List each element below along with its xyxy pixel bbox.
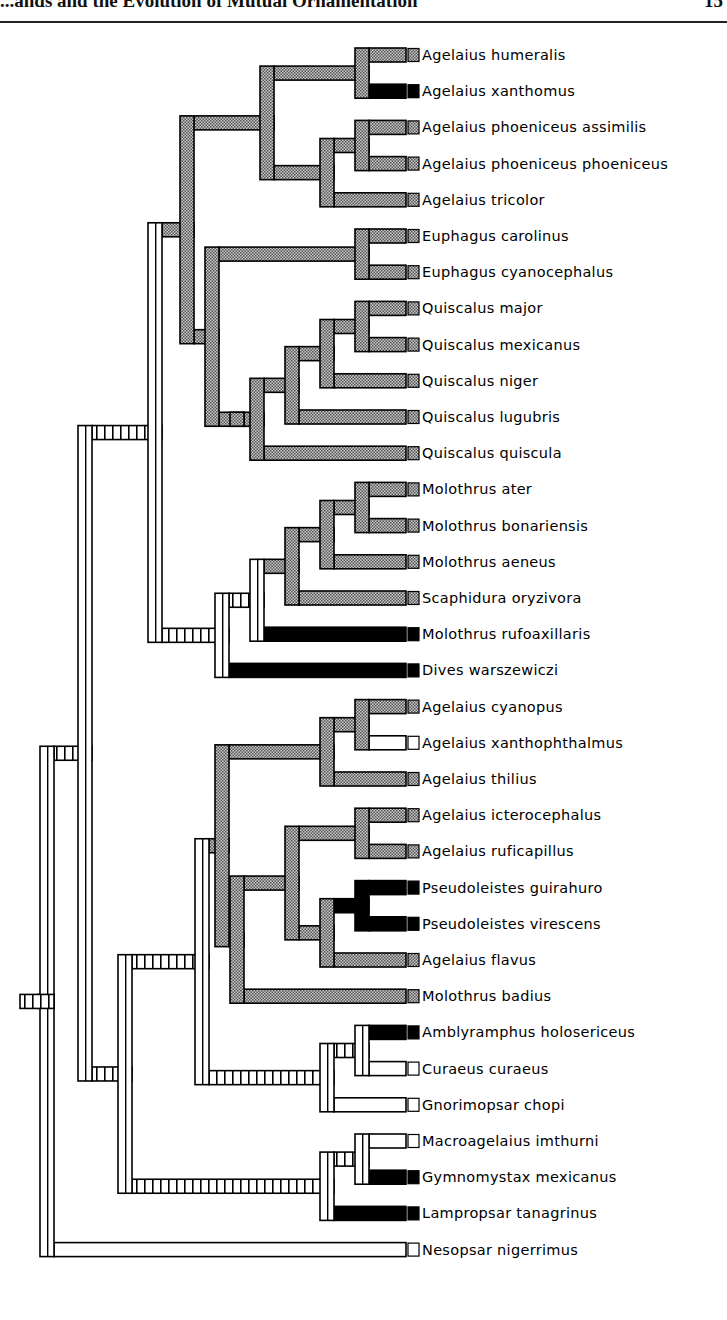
leaf-label: Agelaius humeralis (422, 47, 566, 63)
leaf-label: Dives warszewiczi (422, 662, 558, 678)
state-box-icon (408, 193, 419, 206)
state-boxes (408, 49, 419, 1257)
state-box-icon (408, 1207, 419, 1220)
state-box-icon (408, 555, 419, 568)
state-box-icon (408, 447, 419, 460)
state-box-icon (408, 628, 419, 641)
leaf-label: Agelaius tricolor (422, 192, 545, 208)
state-box-icon (408, 49, 419, 62)
state-box-icon (408, 736, 419, 749)
leaf-label: Quiscalus lugubris (422, 409, 560, 425)
leaf-label: Molothrus rufoaxillaris (422, 626, 590, 642)
leaf-label: Agelaius cyanopus (422, 699, 563, 715)
state-box-icon (408, 121, 419, 134)
state-box-icon (408, 1135, 419, 1148)
leaf-label: Gnorimopsar chopi (422, 1097, 565, 1113)
leaf-label: Agelaius xanthophthalmus (422, 735, 623, 751)
leaf-label: Euphagus cyanocephalus (422, 264, 613, 280)
leaf-label: Quiscalus niger (422, 373, 538, 389)
state-box-icon (408, 338, 419, 351)
leaf-label: Molothrus bonariensis (422, 518, 588, 534)
leaf-label: Agelaius phoeniceus assimilis (422, 119, 646, 135)
state-box-icon (408, 1098, 419, 1111)
leaf-label: Gymnomystax mexicanus (422, 1169, 617, 1185)
state-box-icon (408, 1243, 419, 1256)
leaf-label: Agelaius icterocephalus (422, 807, 601, 823)
leaf-label: Molothrus ater (422, 481, 532, 497)
state-box-icon (408, 773, 419, 786)
state-box-icon (408, 483, 419, 496)
leaf-label: Euphagus carolinus (422, 228, 569, 244)
phylogenetic-tree (0, 0, 727, 1320)
state-box-icon (408, 881, 419, 894)
leaf-label: Agelaius phoeniceus phoeniceus (422, 156, 668, 172)
state-box-icon (408, 700, 419, 713)
state-box-icon (408, 230, 419, 243)
leaf-label: Macroagelaius imthurni (422, 1133, 599, 1149)
leaf-label: Curaeus curaeus (422, 1061, 549, 1077)
leaf-label: Scaphidura oryzivora (422, 590, 582, 606)
state-box-icon (408, 664, 419, 677)
state-box-icon (408, 954, 419, 967)
state-box-icon (408, 519, 419, 532)
state-box-icon (408, 85, 419, 98)
leaf-label: Quiscalus mexicanus (422, 337, 580, 353)
state-box-icon (408, 1171, 419, 1184)
leaf-label: Quiscalus major (422, 300, 543, 316)
tree-branches (20, 48, 406, 1257)
state-box-icon (408, 592, 419, 605)
state-box-icon (408, 1026, 419, 1039)
state-box-icon (408, 845, 419, 858)
leaf-label: Agelaius flavus (422, 952, 536, 968)
leaf-label: Pseudoleistes virescens (422, 916, 601, 932)
leaf-label: Molothrus badius (422, 988, 551, 1004)
state-box-icon (408, 266, 419, 279)
state-box-icon (408, 302, 419, 315)
state-box-icon (408, 157, 419, 170)
state-box-icon (408, 374, 419, 387)
state-box-icon (408, 917, 419, 930)
leaf-label: Quiscalus quiscula (422, 445, 562, 461)
leaf-label: Agelaius thilius (422, 771, 537, 787)
state-box-icon (408, 809, 419, 822)
leaf-label: Molothrus aeneus (422, 554, 556, 570)
state-box-icon (408, 411, 419, 424)
state-box-icon (408, 990, 419, 1003)
leaf-label: Amblyramphus holosericeus (422, 1024, 635, 1040)
leaf-label: Nesopsar nigerrimus (422, 1242, 578, 1258)
leaf-label: Agelaius xanthomus (422, 83, 575, 99)
leaf-label: Pseudoleistes guirahuro (422, 880, 603, 896)
leaf-label: Lampropsar tanagrinus (422, 1205, 597, 1221)
state-box-icon (408, 1062, 419, 1075)
leaf-label: Agelaius ruficapillus (422, 843, 574, 859)
